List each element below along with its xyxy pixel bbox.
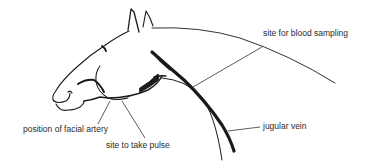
- jugular-vein-line: [152, 52, 234, 151]
- horse-head-illustration: [0, 0, 383, 163]
- facial-vessel: [78, 80, 104, 92]
- cheek-curve: [96, 66, 128, 100]
- label-blood-sampling: site for blood sampling: [263, 29, 348, 38]
- eye: [102, 46, 106, 51]
- throat-line: [154, 76, 166, 77]
- horse-anatomy-diagram: site for blood sampling jugular vein pos…: [0, 0, 383, 163]
- neck-underline: [162, 78, 222, 160]
- ear-left: [128, 9, 139, 32]
- label-facial-artery: position of facial artery: [23, 125, 108, 134]
- ear-right: [143, 11, 153, 27]
- muzzle: [54, 93, 70, 103]
- leader-jugular-vein: [228, 127, 260, 131]
- leader-facial-artery: [98, 101, 110, 124]
- leader-blood-sampling: [193, 47, 262, 87]
- leader-pulse: [122, 101, 145, 138]
- label-pulse-site: site to take pulse: [106, 141, 170, 150]
- label-jugular-vein: jugular vein: [263, 122, 306, 131]
- face-outline: [53, 31, 129, 101]
